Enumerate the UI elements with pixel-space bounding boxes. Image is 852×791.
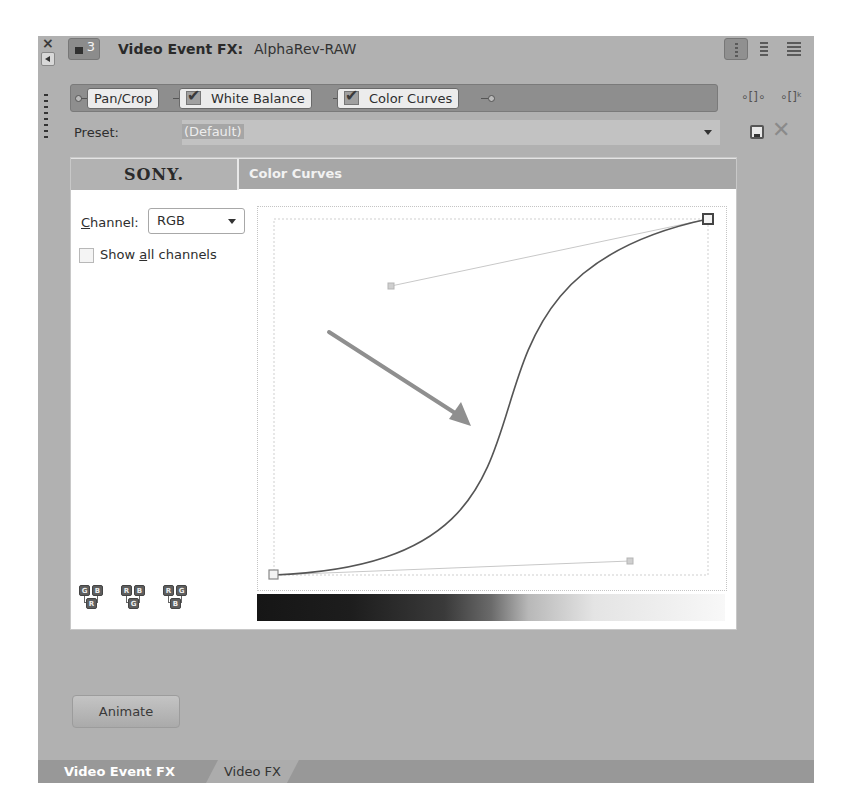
channel-combo-gb-r[interactable]: G B R [79,585,117,613]
channel-chip: G [79,585,90,596]
annotation-arrow-icon [449,402,471,426]
window-title-label: Video Event FX: [118,41,243,57]
track-number: 3 [87,39,95,54]
chevron-down-icon [704,130,712,135]
channel-chip: B [92,585,103,596]
fx-node-color-curves[interactable]: Color Curves [337,88,459,109]
save-preset-icon[interactable] [750,125,764,139]
annotation-arrow-shaft [329,332,455,413]
drag-grip-handle[interactable] [44,94,48,140]
view-button-compact[interactable] [752,38,776,60]
tab-video-fx[interactable]: Video FX [206,760,299,783]
channel-chip: R [86,598,97,609]
preset-label: Preset: [74,125,119,140]
channel-label-text: hannel: [90,215,139,230]
control-handle-start[interactable] [627,558,633,564]
fx-node-white-balance[interactable]: White Balance [179,88,312,109]
chain-end-pin-icon [488,95,495,102]
channel-combo-rb-g[interactable]: R B G [121,585,159,613]
fx-node-label: White Balance [211,91,305,106]
luminance-gradient-bar [257,594,725,621]
delete-preset-icon[interactable]: ✕ [772,118,790,142]
compact-view-icon [760,42,768,56]
enable-checkbox-color-curves[interactable] [344,91,359,105]
label-part: Show [100,247,139,262]
label-part: ll channels [147,247,217,262]
close-icon[interactable]: × [42,36,54,50]
window-title-value: AlphaRev-RAW [254,41,356,57]
animate-button[interactable]: Animate [72,695,180,728]
color-curve-graph[interactable] [257,206,727,591]
plugin-name: Color Curves [249,166,342,181]
channel-label: Channel: [81,215,139,230]
rgb-curve[interactable] [274,219,708,575]
collapse-arrow-icon[interactable] [41,52,55,66]
enable-checkbox-white-balance[interactable] [186,91,201,105]
channel-chip: B [134,585,145,596]
list-view-icon [735,43,738,57]
title-row: 3 Video Event FX: AlphaRev-RAW [68,38,798,62]
preset-value: (Default) [182,124,244,139]
control-handle-end[interactable] [388,283,394,289]
label-accesskey: a [139,247,147,262]
bottom-tab-strip: Video Event FX Video FX [38,733,814,783]
curve-point-start[interactable] [269,570,278,579]
view-button-list[interactable] [724,38,748,60]
handle-line-start [274,561,630,575]
view-button-wide[interactable] [782,38,806,60]
show-all-channels-label: Show all channels [100,247,217,262]
plugin-panel: SONY. Color Curves Channel: RGB Show all… [70,157,737,630]
track-icon [75,47,83,54]
channel-label-accesskey: C [81,215,90,230]
channel-combo-rg-b[interactable]: R G B [163,585,201,613]
curve-point-end[interactable] [703,214,713,224]
channel-chip: B [170,598,181,609]
channel-chip: R [163,585,174,596]
plugin-header: SONY. Color Curves [71,158,736,189]
checkbox-box[interactable] [79,248,94,263]
channel-dropdown[interactable]: RGB [148,208,245,234]
channel-chip: G [176,585,187,596]
wide-view-icon [787,42,801,56]
plugin-chain-icon[interactable]: ∘[]∘ [741,90,765,104]
channel-value: RGB [157,213,185,228]
channel-chip: R [121,585,132,596]
channel-chip: G [128,598,139,609]
remove-plugin-icon[interactable]: ∘[]ᵏ [780,90,802,104]
sony-logo: SONY. [71,159,239,190]
preset-dropdown[interactable]: (Default) [182,120,720,145]
fx-node-label: Color Curves [369,91,452,106]
video-event-fx-window: × 3 Video Event FX: AlphaRev-RAW Pan/Cro… [38,36,814,783]
fx-node-pan-crop[interactable]: Pan/Crop [87,88,159,109]
tab-video-event-fx[interactable]: Video Event FX [56,760,183,783]
handle-line-end [391,219,708,286]
chevron-down-icon [228,219,236,224]
fx-node-label: Pan/Crop [94,91,152,106]
fx-chain-bar: Pan/Crop White Balance Color Curves [70,84,718,112]
track-badge: 3 [68,38,100,60]
curve-area-bounds [274,219,708,575]
